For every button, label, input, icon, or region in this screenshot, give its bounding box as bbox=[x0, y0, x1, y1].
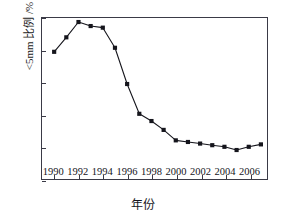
y-tick-mark bbox=[42, 18, 46, 19]
x-tick-label: 2006 bbox=[230, 166, 270, 177]
data-point bbox=[235, 148, 239, 152]
data-point bbox=[210, 143, 214, 147]
data-point bbox=[89, 24, 93, 28]
data-point bbox=[64, 35, 68, 39]
y-tick-mark bbox=[42, 116, 46, 117]
chart-figure: 0246810 19901992199419961998200020022004… bbox=[0, 0, 285, 224]
y-axis-label: <5mm 比例 /% bbox=[20, 0, 36, 96]
data-point bbox=[247, 145, 251, 149]
data-point bbox=[174, 138, 178, 142]
series-polyline bbox=[54, 22, 261, 150]
plot-area bbox=[41, 17, 268, 180]
data-point bbox=[222, 145, 226, 149]
data-point bbox=[259, 142, 263, 146]
data-point bbox=[113, 46, 117, 50]
data-point bbox=[198, 142, 202, 146]
data-point bbox=[186, 140, 190, 144]
y-tick-mark bbox=[42, 83, 46, 84]
series-line-layer bbox=[42, 18, 267, 179]
data-point bbox=[101, 26, 105, 30]
y-tick-mark bbox=[42, 181, 46, 182]
y-tick-mark bbox=[42, 148, 46, 149]
data-point bbox=[137, 112, 141, 116]
x-axis-label: 年份 bbox=[0, 195, 285, 213]
axes-container: 0246810 19901992199419961998200020022004… bbox=[0, 0, 285, 224]
y-tick-mark bbox=[42, 51, 46, 52]
data-point bbox=[76, 20, 80, 24]
data-point bbox=[162, 128, 166, 132]
data-point bbox=[52, 50, 56, 54]
data-point bbox=[125, 82, 129, 86]
data-point bbox=[149, 119, 153, 123]
series-markers bbox=[52, 20, 263, 152]
